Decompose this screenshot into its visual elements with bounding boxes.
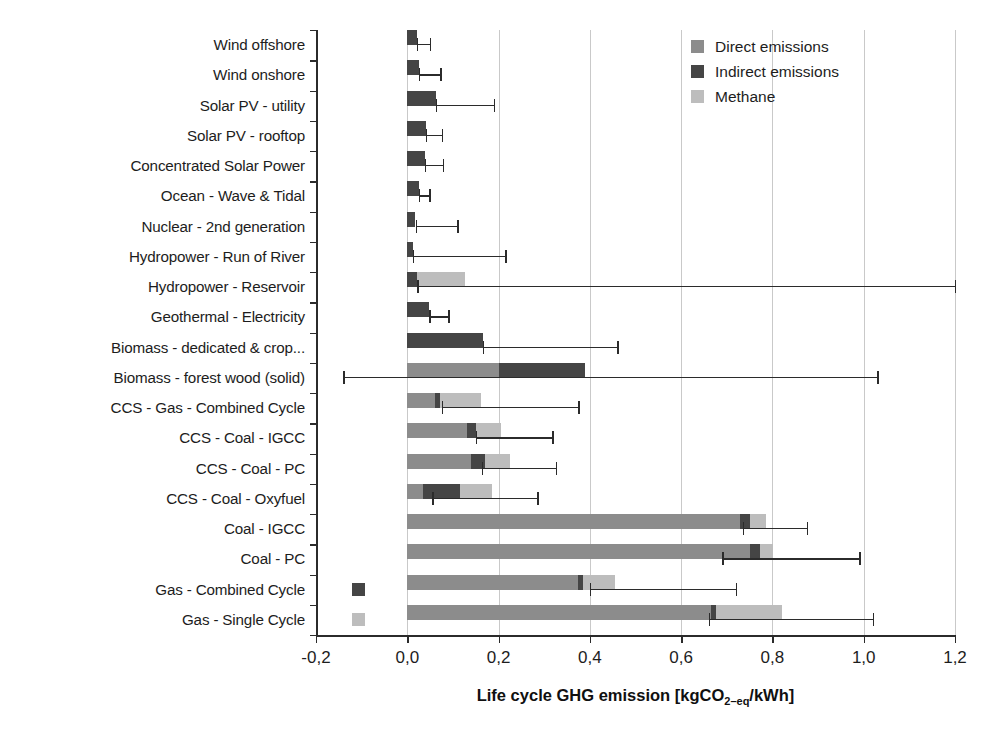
- error-bar-line: [432, 498, 537, 499]
- error-bar-cap: [859, 552, 860, 565]
- offscale-marker-methane: [352, 613, 365, 626]
- bar-segment-methane: [460, 484, 492, 499]
- y-axis-category-label: Wind offshore: [214, 37, 305, 52]
- error-bar-cap: [556, 462, 557, 475]
- error-bar-cap: [736, 583, 737, 596]
- y-axis-tick: [310, 302, 317, 303]
- bar-segment-indirect: [407, 91, 435, 106]
- y-axis-tick: [310, 605, 317, 606]
- x-gridline: [955, 30, 956, 635]
- error-bar-cap: [709, 613, 710, 626]
- y-axis-category-label: CCS - Coal - PC: [196, 461, 305, 476]
- y-axis-category-label: Hydropower - Run of River: [129, 249, 305, 264]
- error-bar-cap: [442, 401, 443, 414]
- x-axis-tick: [772, 635, 773, 643]
- error-bar-line: [590, 589, 736, 590]
- error-bar-line: [709, 619, 873, 620]
- error-bar-line: [425, 165, 443, 166]
- axis-title-subscript: 2–eq: [724, 695, 749, 707]
- error-bar-cap: [578, 401, 579, 414]
- y-axis-tick: [310, 151, 317, 152]
- y-axis-category-label: Concentrated Solar Power: [130, 158, 305, 173]
- y-axis-category-label: CCS - Coal - Oxyfuel: [166, 491, 305, 506]
- y-axis-category-label: Ocean - Wave & Tidal: [161, 188, 305, 203]
- bar-segment-indirect: [499, 363, 586, 378]
- y-axis-category-labels: Wind offshoreWind onshoreSolar PV - util…: [0, 30, 305, 635]
- x-axis-tick-label: 1,0: [852, 648, 876, 668]
- error-bar-cap: [590, 583, 591, 596]
- error-bar-cap: [416, 220, 417, 233]
- y-axis-category-label: Wind onshore: [213, 67, 305, 82]
- y-axis-tick: [310, 91, 317, 92]
- y-axis-tick: [310, 393, 317, 394]
- bar-segment-indirect: [407, 272, 417, 287]
- plot-area: [316, 30, 955, 635]
- x-axis-tick-label: 1,2: [943, 648, 967, 668]
- bar-segment-methane: [417, 272, 465, 287]
- error-bar-line: [413, 256, 506, 257]
- error-bar-cap: [494, 99, 495, 112]
- bar-row: [316, 151, 955, 181]
- bar-segment-direct: [407, 454, 471, 469]
- y-axis-tick: [310, 635, 317, 636]
- error-bar-cap: [419, 189, 420, 202]
- error-bar-line: [419, 74, 440, 75]
- error-bar-cap: [443, 159, 444, 172]
- error-bar-cap: [429, 310, 430, 323]
- bar-segment-direct: [407, 393, 434, 408]
- error-bar-line: [476, 437, 553, 438]
- error-bar-cap: [552, 431, 553, 444]
- error-bar-cap: [743, 522, 744, 535]
- bar-segment-methane: [716, 605, 782, 620]
- y-axis-tick: [310, 272, 317, 273]
- bar-segment-indirect: [407, 30, 417, 45]
- y-axis-tick: [310, 484, 317, 485]
- bar-row: [316, 363, 955, 393]
- error-bar-cap: [505, 250, 506, 263]
- legend-label: Methane: [715, 88, 775, 106]
- y-axis-tick: [310, 181, 317, 182]
- y-axis-category-label: Geothermal - Electricity: [151, 309, 305, 324]
- error-bar-cap: [617, 341, 618, 354]
- bar-segment-methane: [476, 423, 501, 438]
- bar-row: [316, 212, 955, 242]
- bar-segment-indirect: [407, 151, 424, 166]
- error-bar-cap: [413, 250, 414, 263]
- x-axis-tick-label: 0,4: [578, 648, 602, 668]
- legend-swatch-direct: [691, 40, 704, 53]
- y-axis-category-label: Hydropower - Reservoir: [148, 279, 305, 294]
- y-axis-tick: [310, 544, 317, 545]
- error-bar-cap: [432, 492, 433, 505]
- bar-segment-methane: [750, 514, 766, 529]
- x-axis-tick: [864, 635, 865, 643]
- error-bar-cap: [807, 522, 808, 535]
- x-axis-tick: [590, 635, 591, 643]
- bar-segment-methane: [760, 544, 774, 559]
- bar-row: [316, 333, 955, 363]
- legend-item: Direct emissions: [691, 34, 839, 59]
- bar-row: [316, 272, 955, 302]
- bar-row: [316, 605, 955, 635]
- bar-segment-direct: [407, 605, 711, 620]
- error-bar-line: [429, 316, 448, 317]
- error-bar-cap: [955, 280, 956, 293]
- y-axis-category-label: Gas - Single Cycle: [182, 612, 305, 627]
- bar-segment-indirect: [407, 333, 482, 348]
- x-axis-tick-label: -0,2: [301, 648, 330, 668]
- error-bar-cap: [436, 99, 437, 112]
- bar-row: [316, 30, 955, 60]
- bar-segment-methane: [485, 454, 510, 469]
- y-axis-category-label: Coal - IGCC: [224, 521, 305, 536]
- bar-row: [316, 242, 955, 272]
- legend-swatch-methane: [691, 90, 704, 103]
- error-bar-line: [426, 135, 442, 136]
- legend-label: Direct emissions: [715, 38, 829, 56]
- error-bar-cap: [429, 189, 430, 202]
- bar-row: [316, 484, 955, 514]
- y-axis-tick: [310, 423, 317, 424]
- error-bar-cap: [343, 371, 344, 384]
- offscale-marker-indirect: [352, 583, 365, 596]
- bar-segment-direct: [407, 575, 578, 590]
- error-bar-cap: [425, 159, 426, 172]
- error-bar-cap: [877, 371, 878, 384]
